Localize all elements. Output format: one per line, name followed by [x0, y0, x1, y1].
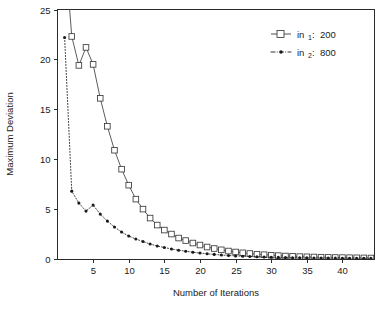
data-point-marker	[183, 238, 189, 244]
data-point-marker	[176, 235, 182, 241]
data-point-marker	[92, 204, 95, 207]
legend-label-in2-value: 800	[320, 47, 336, 58]
data-point-marker	[84, 210, 87, 213]
data-point-marker	[284, 256, 287, 259]
data-point-marker	[233, 249, 239, 255]
y-tick-label: 5	[45, 204, 50, 215]
data-point-marker	[162, 227, 168, 233]
data-point-marker	[90, 62, 96, 68]
data-point-marker	[197, 242, 203, 248]
data-point-marker	[112, 147, 118, 153]
data-point-marker	[170, 247, 173, 250]
data-point-marker	[277, 256, 280, 259]
data-point-marker	[291, 256, 294, 259]
data-point-marker	[255, 255, 258, 258]
data-point-marker	[149, 242, 152, 245]
legend-marker-dot-icon	[279, 50, 282, 53]
x-tick-label: 20	[195, 265, 206, 276]
data-point-marker	[190, 240, 196, 246]
data-point-marker	[120, 231, 123, 234]
legend-label-in2-base: in	[297, 47, 304, 58]
x-tick-label: 30	[266, 265, 277, 276]
data-point-marker	[219, 247, 225, 253]
data-point-marker	[213, 253, 216, 256]
legend-label-in1-base: in	[297, 29, 304, 40]
y-axis-title: Maximum Deviation	[4, 92, 15, 175]
y-tick-label: 25	[40, 5, 51, 16]
x-tick-label: 25	[231, 265, 242, 276]
data-point-marker	[99, 213, 102, 216]
data-point-marker	[298, 256, 301, 259]
x-tick-label: 35	[302, 265, 313, 276]
data-point-marker	[156, 244, 159, 247]
data-point-marker	[305, 256, 308, 259]
data-point-marker	[133, 196, 139, 202]
data-point-marker	[105, 123, 111, 129]
y-tick-label: 10	[40, 154, 51, 165]
data-point-marker	[141, 240, 144, 243]
data-point-marker	[248, 255, 251, 258]
data-point-marker	[234, 254, 237, 257]
data-point-marker	[127, 235, 130, 238]
data-point-marker	[119, 166, 125, 172]
data-point-marker	[97, 96, 103, 102]
legend-label-in2-separator: :	[312, 47, 315, 58]
data-point-marker	[169, 231, 175, 237]
x-tick-label: 40	[337, 265, 348, 276]
data-point-marker	[147, 215, 153, 221]
data-point-marker	[241, 255, 244, 258]
legend-label-in1-value: 200	[320, 29, 336, 40]
data-point-marker	[126, 182, 132, 188]
x-axis-title: Number of Iterations	[173, 287, 259, 298]
data-point-marker	[154, 222, 160, 228]
data-point-marker	[163, 246, 166, 249]
x-tick-label: 5	[91, 265, 96, 276]
data-point-marker	[191, 251, 194, 254]
data-point-marker	[263, 255, 266, 258]
legend-label-in1-separator: :	[312, 29, 315, 40]
data-point-marker	[177, 249, 180, 252]
data-point-marker	[220, 253, 223, 256]
data-point-marker	[226, 248, 232, 254]
y-tick-label: 20	[40, 54, 51, 65]
legend-marker-square-icon	[277, 31, 284, 38]
data-point-marker	[270, 256, 273, 259]
data-point-marker	[77, 202, 80, 205]
data-point-marker	[83, 45, 89, 51]
data-point-marker	[204, 244, 210, 250]
data-point-marker	[184, 250, 187, 253]
chart-figure: 0510152025 510152025303540 Number of Ite…	[0, 0, 386, 310]
data-point-marker	[106, 220, 109, 223]
data-point-marker	[140, 206, 146, 212]
data-point-marker	[63, 36, 66, 39]
data-point-marker	[211, 246, 217, 252]
data-point-marker	[76, 63, 82, 69]
data-point-marker	[69, 34, 75, 40]
data-point-marker	[206, 252, 209, 255]
data-point-marker	[198, 251, 201, 254]
y-tick-label: 15	[40, 104, 51, 115]
y-tick-label: 0	[45, 254, 50, 265]
x-tick-label: 10	[124, 265, 135, 276]
x-tick-label: 15	[159, 265, 170, 276]
data-point-marker	[70, 190, 73, 193]
data-point-marker	[113, 226, 116, 229]
data-point-marker	[227, 254, 230, 257]
data-point-marker	[134, 237, 137, 240]
